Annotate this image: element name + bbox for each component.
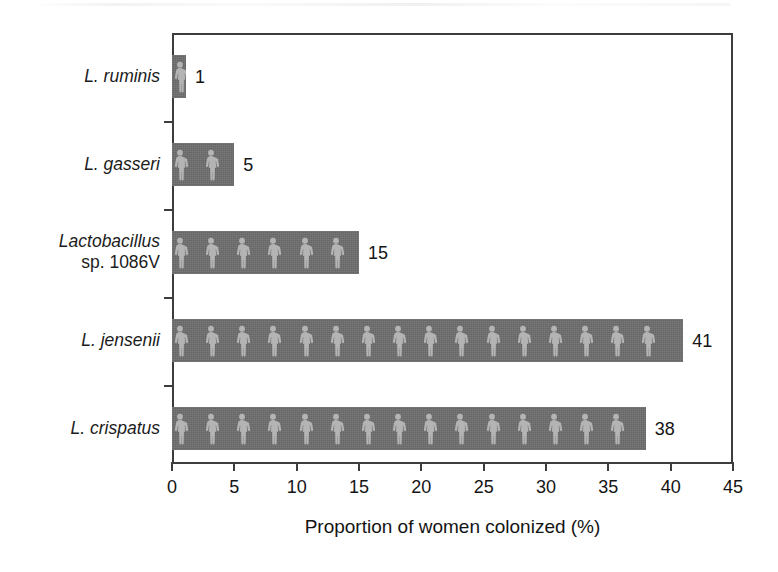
- y-axis-label-line1: L. ruminis: [0, 66, 160, 87]
- person-icon: [390, 413, 406, 445]
- person-icon: [203, 325, 219, 357]
- person-icon: [452, 413, 468, 445]
- x-axis-tick-label: 40: [661, 477, 681, 498]
- bar-pictograms: [172, 407, 646, 450]
- x-axis-tick-35: [607, 462, 609, 471]
- person-icon: [172, 325, 188, 357]
- bar-lactobacillus-sp-1086v: [172, 231, 359, 274]
- x-axis-title: Proportion of women colonized (%): [172, 516, 733, 538]
- x-axis-tick-label: 25: [474, 477, 494, 498]
- person-icon: [172, 237, 188, 269]
- person-icon: [172, 61, 186, 93]
- bar-value-label: 5: [243, 156, 253, 174]
- x-axis-tick-label: 30: [536, 477, 556, 498]
- x-axis-tick-label: 5: [229, 477, 239, 498]
- bar-pictograms: [172, 55, 186, 98]
- person-icon: [359, 413, 375, 445]
- x-axis-tick-20: [420, 462, 422, 471]
- y-axis-label-line1: L. gasseri: [0, 154, 160, 175]
- x-axis-tick-label: 0: [167, 477, 177, 498]
- bar-l-gasseri: [172, 143, 234, 186]
- person-icon: [297, 237, 313, 269]
- person-icon: [203, 237, 219, 269]
- bar-l-jensenii: [172, 319, 683, 362]
- person-icon: [484, 325, 500, 357]
- bar-l-crispatus: [172, 407, 646, 450]
- person-icon: [484, 413, 500, 445]
- scan-artifact: [30, 3, 730, 6]
- category-tick-2: [164, 297, 173, 299]
- y-axis-label: L. jensenii: [0, 330, 160, 351]
- person-icon: [421, 325, 437, 357]
- x-axis-tick-0: [171, 462, 173, 471]
- person-icon: [328, 237, 344, 269]
- person-icon: [328, 325, 344, 357]
- person-icon: [297, 413, 313, 445]
- y-axis-label: L. gasseri: [0, 154, 160, 175]
- person-icon: [546, 413, 562, 445]
- bar-value-label: 1: [195, 68, 205, 86]
- x-axis-tick-5: [233, 462, 235, 471]
- person-icon: [577, 325, 593, 357]
- person-icon: [328, 413, 344, 445]
- x-axis-tick-label: 35: [598, 477, 618, 498]
- bar-value-label: 38: [655, 420, 675, 438]
- x-axis-line: [172, 462, 733, 464]
- bar-l-ruminis: [172, 55, 186, 98]
- category-tick-0: [164, 121, 173, 123]
- person-icon: [359, 325, 375, 357]
- x-axis-tick-15: [358, 462, 360, 471]
- category-tick-1: [164, 209, 173, 211]
- person-icon: [390, 325, 406, 357]
- person-icon: [577, 413, 593, 445]
- person-icon: [452, 325, 468, 357]
- y-axis-label: L. ruminis: [0, 66, 160, 87]
- y-axis-label-line1: L. jensenii: [0, 330, 160, 351]
- x-axis-tick-10: [296, 462, 298, 471]
- person-icon: [546, 325, 562, 357]
- person-icon: [172, 413, 188, 445]
- person-icon: [234, 413, 250, 445]
- y-axis-label-line1: L. crispatus: [0, 418, 160, 439]
- x-axis-tick-25: [483, 462, 485, 471]
- person-icon: [608, 413, 624, 445]
- person-icon: [265, 325, 281, 357]
- person-icon: [421, 413, 437, 445]
- category-tick-3: [164, 385, 173, 387]
- bar-pictograms: [172, 231, 359, 274]
- person-icon: [203, 149, 219, 181]
- bar-pictograms: [172, 143, 234, 186]
- x-axis-tick-label: 20: [411, 477, 431, 498]
- person-icon: [297, 325, 313, 357]
- person-icon: [265, 237, 281, 269]
- bar-value-label: 41: [692, 332, 712, 350]
- y-axis-label-line2: sp. 1086V: [0, 252, 160, 273]
- bar-pictograms: [172, 319, 683, 362]
- person-icon: [172, 149, 188, 181]
- person-icon: [639, 325, 655, 357]
- person-icon: [515, 325, 531, 357]
- x-axis-tick-30: [545, 462, 547, 471]
- y-axis-label: Lactobacillussp. 1086V: [0, 231, 160, 273]
- person-icon: [265, 413, 281, 445]
- y-axis-label-line1: Lactobacillus: [0, 231, 160, 252]
- bar-value-label: 15: [368, 244, 388, 262]
- x-axis-tick-40: [670, 462, 672, 471]
- x-axis-tick-label: 10: [287, 477, 307, 498]
- x-axis-tick-label: 45: [723, 477, 743, 498]
- person-icon: [234, 325, 250, 357]
- y-axis-label: L. crispatus: [0, 418, 160, 439]
- person-icon: [203, 413, 219, 445]
- person-icon: [234, 237, 250, 269]
- person-icon: [608, 325, 624, 357]
- x-axis-tick-45: [732, 462, 734, 471]
- chart-figure: 15154138 L. ruminisL. gasseriLactobacill…: [0, 0, 778, 572]
- person-icon: [515, 413, 531, 445]
- x-axis-tick-label: 15: [349, 477, 369, 498]
